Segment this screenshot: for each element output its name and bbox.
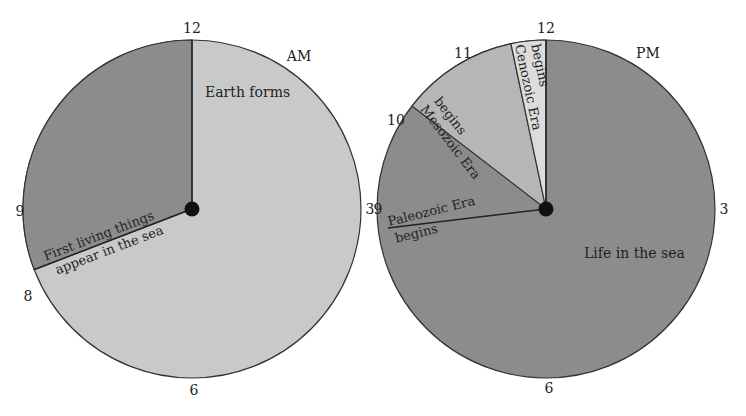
pm-period-label: PM <box>636 45 660 61</box>
pm-hour-9: 9 <box>374 201 383 217</box>
am-hour-8: 8 <box>24 288 33 304</box>
pm-hour-11: 11 <box>454 45 472 61</box>
am-hour-12: 12 <box>183 20 201 36</box>
geologic-clock-diagram: 12 3 6 9 8 AM Earth forms First living t… <box>0 0 746 416</box>
am-period-label: AM <box>286 48 311 64</box>
pm-hour-3: 3 <box>720 201 729 217</box>
am-hour-9: 9 <box>16 203 25 219</box>
am-hour-6: 6 <box>190 382 199 398</box>
pm-clock: 12 11 10 9 3 6 PM Life in the sea Paleoz… <box>374 20 729 396</box>
am-clock: 12 3 6 9 8 AM Earth forms First living t… <box>16 20 375 398</box>
am-clock-hub <box>185 202 200 217</box>
pm-hour-10: 10 <box>387 112 405 128</box>
am-earth-forms-label: Earth forms <box>205 84 290 100</box>
pm-hour-6: 6 <box>545 380 554 396</box>
pm-life-in-sea-label: Life in the sea <box>584 245 685 261</box>
pm-clock-hub <box>539 202 554 217</box>
pm-hour-12: 12 <box>537 20 555 36</box>
